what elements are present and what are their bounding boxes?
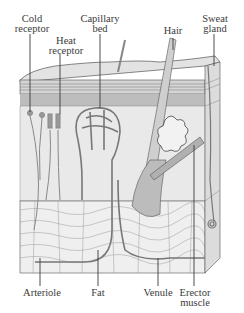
label-sweat-gland: Sweat gland <box>198 14 232 34</box>
skin-cross-section-illustration <box>0 0 244 313</box>
label-venule: Venule <box>140 288 176 298</box>
label-capillary-bed: Capillary bed <box>78 14 122 34</box>
label-heat-receptor: Heat receptor <box>46 36 86 56</box>
label-arteriole: Arteriole <box>18 288 66 298</box>
label-fat: Fat <box>86 288 110 298</box>
label-erector-muscle: Erector muscle <box>176 288 214 308</box>
label-hair: Hair <box>158 26 188 36</box>
label-cold-receptor: Cold receptor <box>12 14 52 34</box>
